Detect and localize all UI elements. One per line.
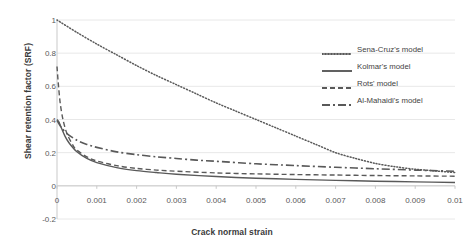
x-tick-label: 0 [55, 196, 59, 205]
legend-label: Sena-Cruz's model [357, 45, 423, 54]
x-axis-title: Crack normal strain [0, 227, 464, 237]
legend-label: Al-Mahaidi's model [357, 96, 423, 105]
legend-label: Rots' model [357, 79, 398, 88]
legend-item[interactable]: Al-Mahaidi's model [322, 92, 462, 109]
y-axis-title: Shear retention factor (SRF) [23, 11, 33, 191]
x-tick-label: 0.01 [447, 196, 463, 205]
shear-retention-factor-chart: -0.200.20.40.60.81 00.0010.0020.0030.004… [0, 0, 464, 247]
x-tick-label: 0.006 [286, 196, 306, 205]
legend-item[interactable]: Rots' model [322, 75, 462, 92]
y-axis-tick-labels: -0.200.20.40.60.81 [14, 0, 56, 247]
legend-line-swatch-icon [322, 96, 352, 106]
x-tick-label: 0.004 [206, 196, 226, 205]
legend-line-swatch-icon [322, 62, 352, 72]
legend-line-swatch-icon [322, 79, 352, 89]
x-tick-label: 0.003 [166, 196, 186, 205]
x-tick-label: 0.008 [365, 196, 385, 205]
legend-item[interactable]: Kolmar's model [322, 58, 462, 75]
legend-item[interactable]: Sena-Cruz's model [322, 41, 462, 58]
series-line [57, 120, 455, 171]
chart-legend: Sena-Cruz's modelKolmar's modelRots' mod… [322, 41, 462, 109]
plot-area [0, 0, 464, 247]
x-tick-label: 0.005 [246, 196, 266, 205]
x-tick-label: 0.007 [326, 196, 346, 205]
x-tick-label: 0.002 [127, 196, 147, 205]
y-tick-label: -0.2 [22, 215, 56, 224]
x-tick-label: 0.009 [405, 196, 425, 205]
legend-line-swatch-icon [322, 45, 352, 55]
series-line [57, 120, 455, 183]
x-tick-label: 0.001 [87, 196, 107, 205]
legend-label: Kolmar's model [357, 62, 411, 71]
